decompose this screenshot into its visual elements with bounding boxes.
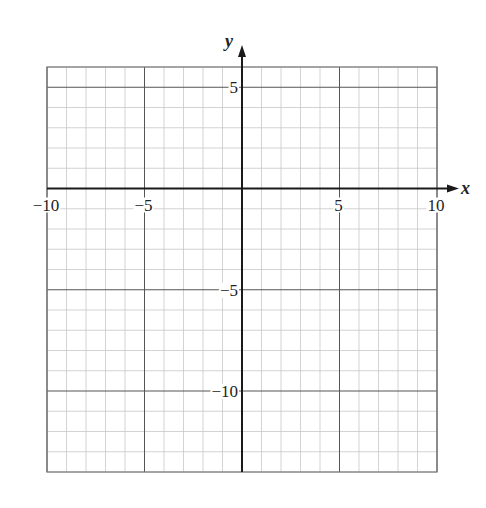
x-tick-label: −10 <box>33 196 60 215</box>
x-arrow-icon <box>447 185 459 193</box>
x-tick-label: −5 <box>134 196 152 215</box>
x-tick-label: 5 <box>334 196 343 215</box>
y-tick-label: −10 <box>211 382 238 401</box>
x-axis-label: x <box>460 178 470 198</box>
x-tick-label: 10 <box>428 196 445 215</box>
axes <box>47 45 459 472</box>
y-arrow-icon <box>238 45 246 57</box>
tick-labels: −10−55105−5−10 <box>32 78 446 401</box>
y-tick-label: 5 <box>230 78 239 97</box>
y-tick-label: −5 <box>220 281 238 300</box>
coordinate-grid: −10−55105−5−10 x y <box>0 0 486 508</box>
y-axis-label: y <box>223 31 234 51</box>
